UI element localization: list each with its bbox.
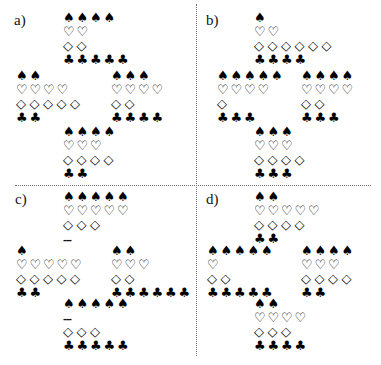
- hand-south: ♠♠♠♠♠---◇◇◇♣♣♣♣♣: [63, 297, 131, 353]
- diamond-icon: ◇: [70, 97, 84, 111]
- diamond-icon: ◇: [125, 97, 139, 111]
- heart-icon: ♡: [254, 139, 268, 153]
- spade-icon: ♠: [90, 297, 104, 311]
- heart-icon: ♡: [90, 139, 104, 153]
- heart-icon: ♡: [138, 83, 152, 97]
- club-icon: ♣: [117, 53, 131, 67]
- diamond-icon: ◇: [77, 153, 91, 167]
- spade-icon: ♠: [271, 69, 285, 83]
- diamond-icon: ◇: [77, 325, 91, 339]
- club-icon: ♣: [63, 339, 77, 353]
- diamond-row: ◇◇◇◇◇: [16, 97, 84, 111]
- diamond-icon: ◇: [268, 39, 282, 53]
- diamond-icon: ◇: [315, 272, 329, 286]
- club-row: ♣♣♣♣: [111, 111, 165, 125]
- diamond-icon: ◇: [254, 39, 268, 53]
- spade-icon: ♠: [207, 244, 221, 258]
- spade-icon: ♠: [281, 125, 295, 139]
- heart-icon: ♡: [138, 258, 152, 272]
- spade-icon: ♠: [104, 125, 118, 139]
- diamond-icon: ◇: [77, 218, 91, 232]
- spade-row: ♠♠♠♠: [63, 11, 131, 25]
- heart-icon: ♡: [16, 83, 30, 97]
- diamond-row: ◇◇◇: [63, 218, 131, 232]
- spade-row: ♠♠: [111, 244, 192, 258]
- diamond-icon: ◇: [207, 272, 221, 286]
- heart-icon: ♡: [254, 204, 268, 218]
- diamond-icon: ◇: [295, 218, 309, 232]
- vertical-divider: [196, 4, 197, 356]
- diamond-icon: ◇: [322, 39, 336, 53]
- diamond-row: ◇◇: [207, 272, 275, 286]
- diamond-row: ◇◇◇◇: [63, 153, 117, 167]
- spade-icon: ♠: [117, 190, 131, 204]
- heart-row: ♡♡♡♡♡: [16, 258, 84, 272]
- spade-icon: ♠: [244, 69, 258, 83]
- diamond-row: ◇◇: [111, 97, 165, 111]
- diamond-icon: ◇: [90, 153, 104, 167]
- spade-row: ♠♠♠♠: [301, 244, 355, 258]
- spade-icon: ♠: [328, 69, 342, 83]
- diamond-row: ◇: [217, 97, 285, 111]
- diamond-icon: ◇: [16, 272, 30, 286]
- club-row: ♣♣♣: [217, 111, 285, 125]
- heart-icon: ♡: [30, 258, 44, 272]
- heart-icon: ♡: [244, 83, 258, 97]
- club-icon: ♣: [179, 286, 193, 300]
- heart-row: ♡♡♡: [63, 139, 117, 153]
- heart-icon: ♡: [63, 204, 77, 218]
- diamond-icon: ◇: [254, 325, 268, 339]
- heart-icon: ♡: [268, 204, 282, 218]
- diamond-icon: ◇: [295, 153, 309, 167]
- spade-icon: ♠: [63, 297, 77, 311]
- club-icon: ♣: [315, 286, 329, 300]
- club-icon: ♣: [63, 167, 77, 181]
- hand-east: ♠♠♡♡♡◇◇♣♣♣♣♣♣: [111, 244, 192, 300]
- spade-icon: ♠: [125, 69, 139, 83]
- spade-icon: ♠: [231, 69, 245, 83]
- heart-row: ♡♡: [63, 25, 131, 39]
- heart-icon: ♡: [217, 83, 231, 97]
- club-row: ♣♣: [63, 167, 117, 181]
- club-icon: ♣: [295, 339, 309, 353]
- spade-icon: ♠: [138, 69, 152, 83]
- spade-row: ♠♠♠♠♠: [63, 190, 131, 204]
- spade-icon: ♠: [63, 11, 77, 25]
- hand-west: ♠♠♠♠♠♡◇◇♣♣♣♣♣: [207, 244, 275, 300]
- diamond-icon: ◇: [90, 218, 104, 232]
- diamond-icon: ◇: [57, 97, 71, 111]
- diamond-icon: ◇: [301, 272, 315, 286]
- heart-icon: ♡: [342, 83, 356, 97]
- spade-icon: ♠: [104, 190, 118, 204]
- diamond-icon: ◇: [57, 272, 71, 286]
- spade-row: ♠: [254, 11, 335, 25]
- heart-icon: ♡: [152, 83, 166, 97]
- heart-icon: ♡: [43, 258, 57, 272]
- club-icon: ♣: [125, 111, 139, 125]
- diamond-row: ◇◇◇◇◇◇: [254, 39, 335, 53]
- spade-icon: ♠: [268, 125, 282, 139]
- hand-south: ♠♠♠♡♡♡◇◇◇◇♣♣♣: [254, 125, 308, 181]
- hand-east: ♠♠♠♠♡♡♡♡◇◇♣♣♣: [301, 69, 355, 125]
- diamond-icon: ◇: [328, 272, 342, 286]
- spade-icon: ♠: [77, 190, 91, 204]
- heart-icon: ♡: [125, 83, 139, 97]
- spade-icon: ♠: [63, 125, 77, 139]
- diamond-icon: ◇: [90, 325, 104, 339]
- club-icon: ♣: [117, 339, 131, 353]
- diamond-row: ◇◇: [111, 272, 192, 286]
- heart-icon: ♡: [328, 258, 342, 272]
- diamond-icon: ◇: [281, 218, 295, 232]
- heart-row: ♡♡♡♡: [111, 83, 165, 97]
- spade-icon: ♠: [63, 190, 77, 204]
- heart-icon: ♡: [281, 204, 295, 218]
- spade-icon: ♠: [301, 69, 315, 83]
- club-icon: ♣: [281, 53, 295, 67]
- spade-row: ♠♠: [254, 297, 308, 311]
- horizontal-divider: [15, 185, 371, 186]
- club-icon: ♣: [234, 286, 248, 300]
- diamond-icon: ◇: [63, 39, 77, 53]
- diamond-row: ◇◇◇◇: [301, 272, 355, 286]
- spade-row: ♠♠♠♠: [301, 69, 355, 83]
- diamond-icon: ◇: [301, 97, 315, 111]
